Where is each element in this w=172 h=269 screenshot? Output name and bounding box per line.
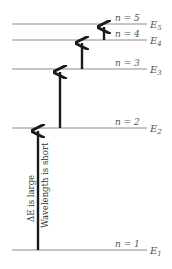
e-label-2: E2 [149,123,162,136]
n-label-2: n = 2 [115,117,140,127]
e-label-4: E4 [149,35,162,48]
n-label-5: n = 5 [115,13,140,23]
energy-level-diagram: n = 5 n = 4 n = 3 n = 2 n = 1 E5 E4 E3 E… [0,0,172,269]
wavelength-annotation: Wavelength is short [40,142,50,228]
delta-e-annotation: ΔE is large [26,175,36,222]
n-label-4: n = 4 [115,29,140,39]
e-label-1: E1 [149,245,162,258]
n-label-1: n = 1 [115,239,140,249]
e-label-5: E5 [149,19,162,32]
e-label-3: E3 [149,64,162,77]
n-label-3: n = 3 [115,58,140,68]
